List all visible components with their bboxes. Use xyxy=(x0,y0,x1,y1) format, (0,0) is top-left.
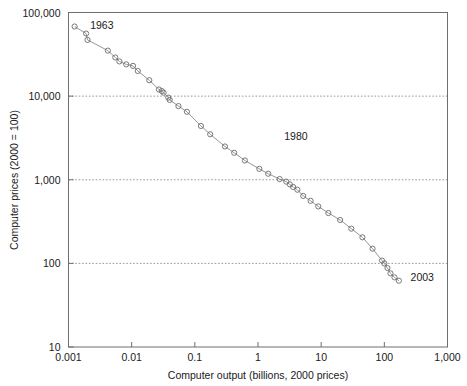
annotation-1980: 1980 xyxy=(284,130,308,142)
data-point-1966 xyxy=(105,48,110,53)
data-point-1967 xyxy=(113,55,118,60)
data-point-1997 xyxy=(349,226,354,231)
data-point-1992 xyxy=(301,193,306,198)
data-point-1968 xyxy=(117,59,122,64)
data-point-1982 xyxy=(222,144,227,149)
computer-prices-vs-output-chart: 0.0010.010.11101001,000 101001,00010,000… xyxy=(0,0,467,386)
data-point-2002 xyxy=(385,265,390,270)
data-point-1998 xyxy=(360,235,365,240)
data-point-1996 xyxy=(338,217,343,222)
data-point-1980 xyxy=(198,123,203,128)
x-axis-title: Computer output (billions, 2000 prices) xyxy=(168,369,348,381)
x-tick-label-6: 1,000 xyxy=(434,351,460,363)
y-tick-label-4: 100,000 xyxy=(23,7,61,19)
chart-background xyxy=(0,0,467,386)
data-point-1972 xyxy=(147,78,152,83)
y-tick-label-2: 1,000 xyxy=(34,174,60,186)
data-point-1979 xyxy=(184,109,189,114)
data-point-2005 xyxy=(396,278,401,283)
x-tick-label-4: 10 xyxy=(315,351,327,363)
data-point-2001 xyxy=(382,261,387,266)
y-tick-label-3: 10,000 xyxy=(28,90,60,102)
data-point-1965 xyxy=(85,37,90,42)
data-point-1983 xyxy=(232,150,237,155)
data-point-1969 xyxy=(124,62,129,67)
data-point-1964 xyxy=(84,31,89,36)
y-tick-label-0: 10 xyxy=(49,341,61,353)
data-point-1994 xyxy=(316,204,321,209)
data-point-1991 xyxy=(295,187,300,192)
data-point-1993 xyxy=(308,198,313,203)
data-point-1978 xyxy=(176,103,181,108)
data-point-1970 xyxy=(130,63,135,68)
chart-container: 0.0010.010.11101001,000 101001,00010,000… xyxy=(0,0,467,386)
data-point-1977 xyxy=(167,97,172,102)
data-point-1975 xyxy=(161,90,166,95)
y-axis-title: Computer prices (2000 = 100) xyxy=(8,110,20,250)
data-point-1985 xyxy=(257,166,262,171)
x-tick-label-2: 0.1 xyxy=(188,351,203,363)
data-point-1995 xyxy=(326,210,331,215)
data-point-1984 xyxy=(242,158,247,163)
x-tick-label-5: 100 xyxy=(376,351,394,363)
data-point-1981 xyxy=(208,132,213,137)
x-tick-label-3: 1 xyxy=(255,351,261,363)
x-tick-label-1: 0.01 xyxy=(121,351,142,363)
data-point-1987 xyxy=(277,176,282,181)
annotation-2003: 2003 xyxy=(411,271,435,283)
annotation-1963: 1963 xyxy=(90,19,114,31)
data-point-1999 xyxy=(370,246,375,251)
y-tick-label-1: 100 xyxy=(43,257,61,269)
data-point-1963 xyxy=(72,24,77,29)
data-point-1986 xyxy=(266,171,271,176)
data-point-1971 xyxy=(135,68,140,73)
data-point-2003 xyxy=(388,271,393,276)
